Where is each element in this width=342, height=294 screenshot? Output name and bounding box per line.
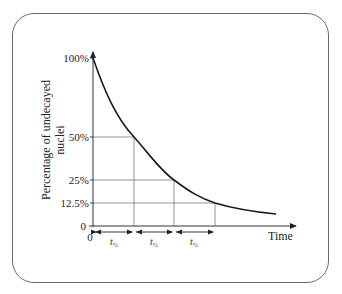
y-label-50: 50% — [69, 131, 89, 143]
x-label-origin: 0 — [87, 231, 93, 243]
half-life-label-1: t½ — [110, 236, 119, 249]
y-label-25: 25% — [69, 174, 89, 186]
y-label-12-5: 12.5% — [61, 197, 89, 209]
decay-curve — [93, 58, 276, 214]
decay-chart: 100% 50% 25% 12.5% 0 0 Percentage of und… — [0, 0, 342, 294]
y-label-100: 100% — [63, 52, 89, 64]
y-axis-title: Percentage of undecayed nuclei — [39, 80, 67, 200]
y-label-0: 0 — [81, 220, 87, 232]
x-axis-title: Time — [268, 229, 293, 243]
half-life-label-3: t½ — [190, 236, 199, 249]
svg-text:Percentage of undecayed: Percentage of undecayed — [39, 80, 53, 200]
svg-text:nuclei: nuclei — [53, 125, 67, 155]
guide-lines — [93, 137, 215, 226]
half-life-label-2: t½ — [150, 236, 159, 249]
